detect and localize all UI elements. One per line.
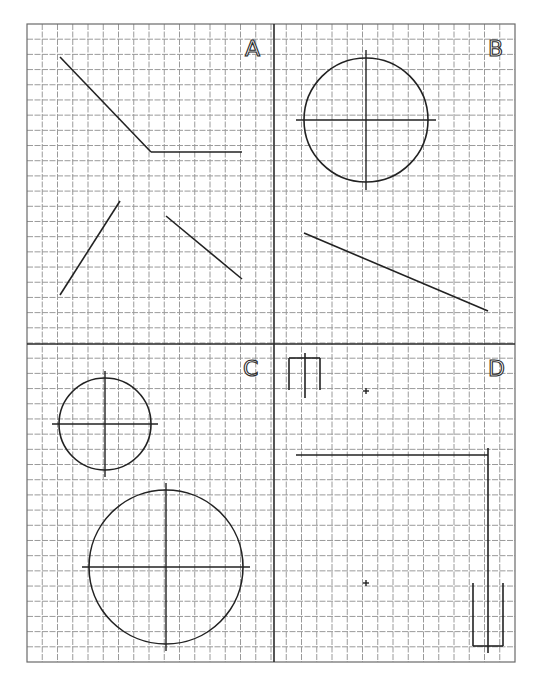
quadrant-label-d: D	[488, 356, 505, 381]
line-segment	[60, 201, 120, 295]
quadrant-label-c: C	[243, 356, 258, 381]
quadrant-b: B	[296, 36, 503, 311]
line-segment	[60, 57, 151, 152]
quadrant-c: C	[52, 356, 258, 651]
quadrant-label-b: B	[488, 36, 503, 61]
quadrant-label-a: A	[245, 36, 260, 61]
quadrant-d: D	[289, 353, 505, 653]
quadrant-a: A	[60, 36, 260, 295]
line-segment	[166, 216, 242, 279]
technical-drawing-canvas: A B C D	[0, 0, 541, 688]
